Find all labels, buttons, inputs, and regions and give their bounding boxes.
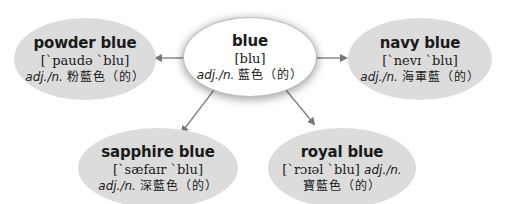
node-phonetic: [ˋsæfaɪr ˋblu] <box>113 161 203 178</box>
node-phonetic: [ˋpaudə ˋblu] <box>41 52 130 69</box>
part-of-speech: adj./n. <box>25 70 63 84</box>
node-word: royal blue <box>301 143 384 161</box>
node-definition: 寶藍色（的） <box>303 178 381 194</box>
arrow-to-sapphire-blue <box>182 90 214 132</box>
node-blue-center: blue [blu] adj./n. 藍色（的） <box>184 18 316 96</box>
meaning: 海軍藍（的） <box>402 70 480 84</box>
node-navy-blue: navy blue [ˋnevɪ ˋblu] adj./n. 海軍藍（的） <box>348 18 492 100</box>
node-sapphire-blue: sapphire blue [ˋsæfaɪr ˋblu] adj./n. 深藍色… <box>78 128 238 204</box>
node-definition: adj./n. 粉藍色（的） <box>25 69 144 85</box>
part-of-speech: adj./n. <box>98 179 136 193</box>
node-definition: adj./n. 深藍色（的） <box>98 178 217 194</box>
node-royal-blue: royal blue [ˋrɔɪəl ˋblu] adj./n. 寶藍色（的） <box>268 128 416 204</box>
meaning: 粉藍色（的） <box>67 70 145 84</box>
node-word: navy blue <box>380 34 461 52</box>
meaning: 寶藍色（的） <box>303 179 381 193</box>
meaning: 藍色（的） <box>238 68 303 82</box>
phonetic-text: [ˋrɔɪəl ˋblu] <box>282 162 360 177</box>
arrow-to-royal-blue <box>286 90 314 124</box>
node-phonetic: [ˋnevɪ ˋblu] <box>382 52 458 69</box>
node-definition: adj./n. 海軍藍（的） <box>360 69 479 85</box>
part-of-speech: adj./n. <box>364 163 402 177</box>
center-phonetic: [blu] <box>235 50 266 67</box>
center-definition: adj./n. 藍色（的） <box>197 67 303 83</box>
part-of-speech: adj./n. <box>360 70 398 84</box>
meaning: 深藍色（的） <box>140 179 218 193</box>
part-of-speech: adj./n. <box>197 68 235 82</box>
node-word: powder blue <box>34 34 137 52</box>
center-word: blue <box>232 32 268 50</box>
node-phonetic: [ˋrɔɪəl ˋblu] adj./n. <box>282 161 401 178</box>
node-word: sapphire blue <box>101 143 214 161</box>
node-powder-blue: powder blue [ˋpaudə ˋblu] adj./n. 粉藍色（的） <box>14 18 156 100</box>
